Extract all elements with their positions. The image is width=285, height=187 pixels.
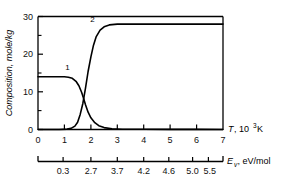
e-tick-label-4p2: 4.2 [137,166,150,176]
x-tick-label-4: 4 [141,135,146,145]
x-tick-label-5: 5 [168,135,173,145]
y-tick-label-30: 30 [23,12,33,22]
x-tick-label-0: 0 [35,135,40,145]
curve-label-2: 2 [90,15,95,24]
x-tick-label-3: 3 [115,135,120,145]
curve-label-1: 1 [65,63,70,72]
composition-vs-temperature-chart: 0 10 20 30 Composition, mole/kg 0 1 2 3 … [0,0,285,187]
x-tick-label-7: 7 [220,135,225,145]
y-tick-label-20: 20 [23,49,33,59]
x-tick-label-6: 6 [194,135,199,145]
e-tick-label-4p6: 4.6 [163,166,176,176]
x-axis-primary-unit: K [257,124,263,134]
x-tick-label-2: 2 [88,135,93,145]
e-tick-label-3p7: 3.7 [111,166,124,176]
y-axis-title: Composition, mole/kg [4,30,14,117]
x-axis-primary-title: T , 10 3 K [228,122,263,135]
y-tick-label-0: 0 [28,125,33,135]
x-axis-secondary-rest: , eV/mol [238,156,271,166]
e-tick-label-0p3: 0.3 [57,166,70,176]
x-tick-label-1: 1 [62,135,67,145]
y-tick-label-10: 10 [23,87,33,97]
x-axis-primary-rest: , 10 [234,124,249,134]
x-axis-secondary-symbol: E [227,156,234,166]
e-tick-label-5p0: 5.0 [186,166,199,176]
chart-figure: 0 10 20 30 Composition, mole/kg 0 1 2 3 … [0,0,285,187]
e-tick-label-5p5: 5.5 [204,166,217,176]
e-tick-label-2p7: 2.7 [85,166,98,176]
